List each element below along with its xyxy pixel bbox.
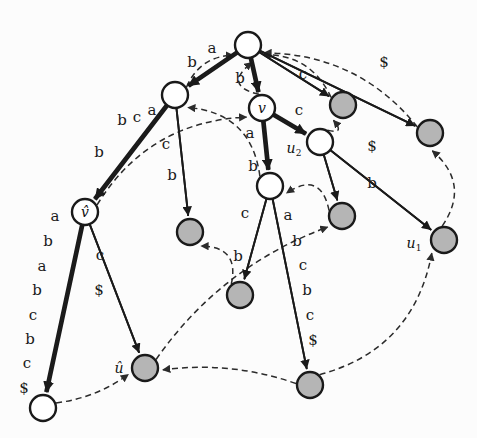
tree-edge [45, 224, 83, 391]
graph-node-uhat[interactable] [132, 355, 158, 381]
edge-label: b [302, 283, 312, 298]
edge-label: $ [94, 283, 104, 298]
edge-label: c [96, 248, 104, 263]
suffix-link [163, 367, 296, 383]
edge-label: b [187, 55, 197, 70]
edge-label: $ [367, 139, 377, 154]
tree-edge [259, 52, 329, 96]
edge-label: b [233, 249, 243, 264]
edge-label: a [38, 259, 47, 274]
suffix-link [56, 375, 128, 403]
graph-node-g_c[interactable] [330, 92, 356, 118]
graph-canvas [0, 0, 477, 438]
node-label-u2: u2 [287, 140, 302, 159]
graph-node-g_l[interactable] [177, 219, 203, 245]
node-label-vhat: v̂ [81, 204, 89, 220]
edge-label: b [43, 234, 53, 249]
graph-node-w_bl[interactable] [30, 395, 56, 421]
edge-label: c [133, 110, 141, 125]
node-label-u1: u1 [407, 235, 422, 254]
suffix-link [97, 117, 246, 205]
suffix-tree-figure: abbc$cbabcbcabb$cbabcbc$ababcbc$c$ vu2v̂… [0, 0, 477, 438]
edge-label: c [23, 356, 31, 371]
tree-edge-layer [45, 51, 430, 392]
graph-node-mid[interactable] [257, 173, 283, 199]
tree-edge [176, 108, 188, 215]
graph-node-g_r[interactable] [329, 203, 355, 229]
edge-label: c [162, 137, 170, 152]
edge-label: b [235, 71, 245, 86]
tree-edge [324, 154, 337, 199]
graph-node-g_top[interactable] [417, 120, 443, 146]
edge-label: a [148, 103, 157, 118]
graph-node-n_b[interactable] [162, 82, 188, 108]
edge-label: b [292, 234, 302, 249]
edge-label: a [51, 209, 60, 224]
edge-label: b [94, 145, 104, 160]
tree-edge [249, 57, 259, 91]
edge-label: c [241, 206, 249, 221]
edge-label: b [367, 176, 377, 191]
suffix-link [287, 185, 329, 211]
edge-label: c [299, 258, 307, 273]
tree-edge [262, 121, 270, 169]
graph-node-u2[interactable] [307, 129, 333, 155]
edge-label: c [299, 67, 307, 82]
graph-node-g_bc[interactable] [297, 372, 323, 398]
edge-label: b [167, 168, 177, 183]
edge-label: b [248, 159, 258, 174]
edge-label: b [32, 283, 42, 298]
node-layer [30, 32, 457, 421]
suffix-link [327, 120, 338, 131]
edge-label: c [306, 308, 314, 323]
edge-label: $ [19, 381, 29, 396]
edge-label: a [246, 126, 255, 141]
graph-node-g_m[interactable] [227, 282, 253, 308]
graph-node-u1[interactable] [431, 227, 457, 253]
suffix-link [201, 246, 233, 284]
suffix-link [320, 253, 432, 374]
node-label-uhat: û [114, 360, 123, 376]
edge-label: b [117, 113, 127, 128]
edge-label: $ [379, 55, 389, 70]
edge-label: $ [308, 333, 318, 348]
suffix-link [432, 151, 454, 226]
edge-label: c [295, 103, 303, 118]
tree-edge [94, 104, 168, 199]
graph-node-root[interactable] [235, 32, 261, 58]
edge-label: c [29, 308, 37, 323]
node-label-v: v [258, 100, 266, 116]
edge-label: a [284, 208, 293, 223]
edge-label: b [25, 332, 35, 347]
edge-label: a [208, 41, 217, 56]
